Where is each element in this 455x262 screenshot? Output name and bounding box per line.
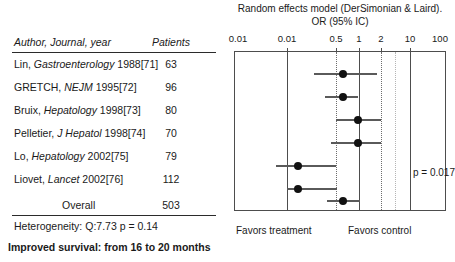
study-patients: 79 bbox=[152, 150, 190, 162]
improved-survival-text: Improved survival: from 16 to 20 months bbox=[8, 241, 210, 253]
reference-line-0.5 bbox=[336, 52, 337, 210]
reference-line-2 bbox=[381, 52, 382, 210]
table-row: Lo, Hepatology 2002[75] 79 bbox=[0, 150, 228, 172]
column-header-author: Author, Journal, year bbox=[14, 36, 111, 48]
effect-estimate-marker bbox=[354, 139, 362, 147]
study-patients: 63 bbox=[152, 58, 190, 70]
reference-line-null bbox=[359, 52, 360, 210]
effect-estimate-marker bbox=[294, 162, 302, 170]
column-header-patients: Patients bbox=[152, 36, 190, 48]
x-tick-label: 0.5 bbox=[329, 33, 342, 44]
table-row: Lin, Gastroenterology 1988[71] 63 bbox=[0, 58, 228, 80]
favors-control-label: Favors control bbox=[348, 225, 411, 236]
x-tick-label: 0.01 bbox=[278, 33, 297, 44]
study-citation: Liovet, Lancet 2002[76] bbox=[14, 173, 123, 185]
reference-line-0.01 bbox=[287, 52, 288, 210]
confidence-interval-bar bbox=[276, 165, 336, 167]
study-citation: GRETCH, NEJM 1995[72] bbox=[14, 81, 137, 93]
p-value-label: p = 0.017 bbox=[413, 167, 455, 178]
heterogeneity-text: Heterogeneity: Q:7.73 p = 0.14 bbox=[14, 220, 158, 232]
effect-estimate-marker bbox=[294, 185, 302, 193]
table-row: Bruix, Hepatology 1998[73] 80 bbox=[0, 104, 228, 126]
reference-line-10 bbox=[410, 52, 411, 210]
study-patients: 96 bbox=[152, 81, 190, 93]
overall-patients: 503 bbox=[152, 199, 190, 211]
chart-title-line2: OR (95% IC) bbox=[228, 16, 452, 29]
table-row: GRETCH, NEJM 1995[72] 96 bbox=[0, 81, 228, 103]
effect-estimate-marker bbox=[339, 93, 347, 101]
overall-label: Overall bbox=[62, 199, 95, 211]
header-divider bbox=[12, 52, 216, 53]
study-citation: Bruix, Hepatology 1998[73] bbox=[14, 104, 141, 116]
table-row-overall: Overall 503 bbox=[0, 199, 228, 221]
effect-estimate-marker bbox=[339, 70, 347, 78]
chart-title-line1: Random effects model (DerSimonian & Lair… bbox=[228, 3, 452, 16]
overall-divider bbox=[12, 215, 216, 216]
table-header-row: Author, Journal, year Patients bbox=[0, 36, 228, 58]
x-tick-label: 1 bbox=[356, 33, 361, 44]
study-citation: Pelletier, J Hepatol 1998[74] bbox=[14, 127, 145, 139]
overall-effect-marker bbox=[339, 197, 347, 205]
study-patients: 112 bbox=[152, 173, 190, 185]
study-patients: 80 bbox=[152, 104, 190, 116]
table-row: Liovet, Lancet 2002[76] 112 bbox=[0, 173, 228, 195]
forest-plot: Random effects model (DerSimonian & Lair… bbox=[228, 0, 452, 262]
study-patients: 70 bbox=[152, 127, 190, 139]
plot-frame: p = 0.017 bbox=[234, 51, 446, 211]
effect-estimate-marker bbox=[354, 116, 362, 124]
reference-line-minor bbox=[395, 52, 396, 210]
study-citation: Lin, Gastroenterology 1988[71] bbox=[14, 58, 158, 70]
x-tick-label: 10 bbox=[405, 33, 416, 44]
x-tick-label: 2 bbox=[378, 33, 383, 44]
x-axis-tick-labels: 0.01 0.01 0.5 1 2 10 100 bbox=[228, 33, 452, 47]
study-citation: Lo, Hepatology 2002[75] bbox=[14, 150, 128, 162]
x-tick-label: 100 bbox=[432, 33, 448, 44]
table-row: Pelletier, J Hepatol 1998[74] 70 bbox=[0, 127, 228, 149]
x-tick-label: 0.01 bbox=[229, 33, 248, 44]
favors-treatment-label: Favors treatment bbox=[236, 225, 312, 236]
chart-title: Random effects model (DerSimonian & Lair… bbox=[228, 3, 452, 28]
study-table: Author, Journal, year Patients Lin, Gast… bbox=[0, 0, 228, 262]
